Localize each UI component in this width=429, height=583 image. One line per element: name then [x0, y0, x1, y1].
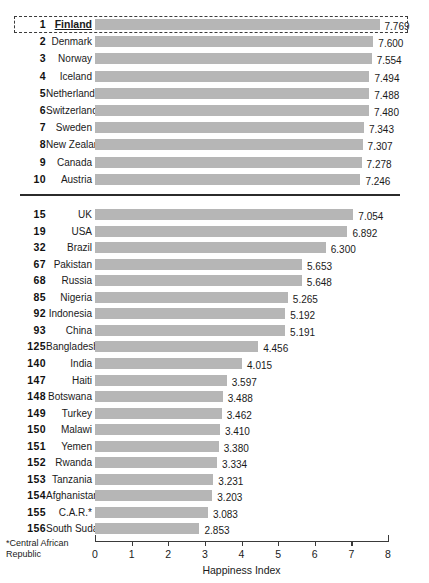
bar	[95, 53, 372, 64]
bar	[95, 490, 212, 501]
country-label: Finland	[46, 17, 92, 32]
axis-tick	[242, 541, 243, 546]
value-label: 7.488	[374, 88, 399, 103]
value-label: 4.456	[263, 341, 288, 356]
rank-label: 149	[10, 406, 46, 421]
bar-track: 5.653	[95, 259, 388, 270]
chart-row: 8New Zealand7.307	[0, 137, 429, 152]
rank-label: 140	[10, 356, 46, 371]
bar	[95, 424, 220, 435]
happiness-index-bar-chart: 1Finland7.7692Denmark7.6003Norway7.5544I…	[0, 0, 429, 583]
bar-track: 4.015	[95, 358, 388, 369]
chart-row: 5Netherlands7.488	[0, 86, 429, 101]
bar-track: 7.278	[95, 157, 388, 168]
value-label: 7.307	[368, 139, 393, 154]
value-label: 3.334	[222, 457, 247, 472]
bar	[95, 275, 302, 286]
chart-row: 85Nigeria5.265	[0, 290, 429, 305]
bar-track: 7.480	[95, 105, 388, 116]
value-label: 7.246	[365, 174, 390, 189]
chart-row: 153Tanzania3.231	[0, 472, 429, 487]
value-label: 5.265	[293, 292, 318, 307]
bar-track: 3.231	[95, 474, 388, 485]
bar-track: 7.246	[95, 174, 388, 185]
chart-row: 154Afghanistan3.203	[0, 488, 429, 503]
rank-label: 10	[10, 172, 46, 187]
country-label: Iceland	[46, 69, 92, 84]
value-label: 5.653	[307, 259, 332, 274]
bar	[95, 259, 302, 270]
bar	[95, 36, 373, 47]
value-label: 3.410	[225, 424, 250, 439]
chart-row: 152Rwanda3.334	[0, 455, 429, 470]
chart-row: 2Denmark7.600	[0, 34, 429, 49]
country-label: China	[46, 323, 92, 338]
axis-tick-label: 8	[385, 548, 391, 560]
axis-tick	[95, 535, 96, 542]
bar	[95, 209, 353, 220]
bar-track: 3.488	[95, 391, 388, 402]
country-label: Botswana	[46, 389, 92, 404]
rank-label: 4	[10, 69, 46, 84]
value-label: 7.554	[377, 53, 402, 68]
bar-track: 7.343	[95, 122, 388, 133]
axis-tick	[351, 541, 352, 546]
bar-track: 5.265	[95, 292, 388, 303]
group-divider	[20, 194, 400, 196]
bar-track: 3.203	[95, 490, 388, 501]
chart-row: 93China5.191	[0, 323, 429, 338]
rank-label: 85	[10, 290, 46, 305]
chart-row: 6Switzerland7.480	[0, 103, 429, 118]
bar	[95, 242, 326, 253]
rank-label: 1	[10, 17, 46, 32]
value-label: 5.191	[290, 325, 315, 340]
rank-label: 152	[10, 455, 46, 470]
country-label: UK	[46, 207, 92, 222]
chart-row: 10Austria7.246	[0, 172, 429, 187]
bar	[95, 523, 199, 534]
value-label: 6.892	[352, 226, 377, 241]
bar-track: 3.462	[95, 408, 388, 419]
value-label: 5.192	[290, 308, 315, 323]
chart-row: 32Brazil6.300	[0, 240, 429, 255]
bar	[95, 105, 369, 116]
chart-row: 149Turkey3.462	[0, 406, 429, 421]
country-label: Afghanistan	[46, 488, 92, 503]
rank-label: 156	[10, 521, 46, 536]
value-label: 7.480	[374, 105, 399, 120]
axis-tick-label: 6	[312, 548, 318, 560]
bar	[95, 157, 362, 168]
bar	[95, 325, 285, 336]
bar	[95, 441, 219, 452]
value-label: 7.343	[369, 122, 394, 137]
value-label: 3.083	[213, 507, 238, 522]
value-label: 5.648	[307, 275, 332, 290]
country-label: Bangladesh	[46, 339, 92, 354]
chart-row: 1Finland7.769	[0, 17, 429, 32]
rank-label: 150	[10, 422, 46, 437]
country-label: Norway	[46, 51, 92, 66]
axis-tick-label: 3	[202, 548, 208, 560]
value-label: 6.300	[331, 242, 356, 257]
bar	[95, 174, 360, 185]
chart-row: 7Sweden7.343	[0, 120, 429, 135]
bar	[95, 391, 223, 402]
chart-row: 147Haiti3.597	[0, 373, 429, 388]
country-label: New Zealand	[46, 137, 92, 152]
value-label: 4.015	[247, 358, 272, 373]
bar-track: 7.769	[95, 19, 388, 30]
bar	[95, 88, 369, 99]
country-label: India	[46, 356, 92, 371]
country-label: USA	[46, 224, 92, 239]
axis-tick-label: 1	[129, 548, 135, 560]
chart-row: 140India4.015	[0, 356, 429, 371]
rank-label: 5	[10, 86, 46, 101]
bar	[95, 457, 217, 468]
chart-row: 9Canada7.278	[0, 155, 429, 170]
bar	[95, 139, 363, 150]
chart-row: 150Malawi3.410	[0, 422, 429, 437]
rank-label: 8	[10, 137, 46, 152]
value-label: 7.054	[358, 209, 383, 224]
bar-track: 3.083	[95, 507, 388, 518]
country-label: Turkey	[46, 406, 92, 421]
